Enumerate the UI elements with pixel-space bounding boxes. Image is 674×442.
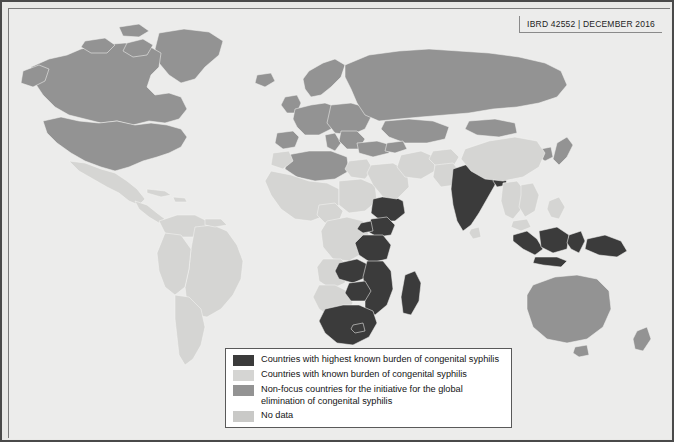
legend-label-known-burden: Countries with known burden of congenita…	[261, 369, 467, 381]
legend-swatch-non-focus	[233, 385, 254, 396]
legend-swatch-highest-burden	[233, 355, 254, 366]
legend-label-highest-burden: Countries with highest known burden of c…	[261, 354, 499, 366]
legend-item-non-focus: Non-focus countries for the initiative f…	[233, 384, 505, 407]
legend-item-known-burden: Countries with known burden of congenita…	[233, 369, 505, 381]
legend-label-no-data: No data	[261, 410, 293, 422]
map-legend: Countries with highest known burden of c…	[225, 348, 512, 428]
island-hispaniola	[173, 197, 187, 202]
legend-item-no-data: No data	[233, 410, 505, 422]
legend-label-non-focus: Non-focus countries for the initiative f…	[261, 384, 505, 407]
map-credit-box: IBRD 42552 | DECEMBER 2016	[519, 16, 662, 33]
map-inner-frame: Countries with highest known burden of c…	[8, 8, 670, 438]
world-map-figure: Countries with highest known burden of c…	[0, 0, 674, 442]
legend-swatch-no-data	[233, 411, 254, 422]
legend-item-highest-burden: Countries with highest known burden of c…	[233, 354, 505, 366]
country-zimbabwe	[345, 281, 371, 301]
map-credit-text: IBRD 42552 | DECEMBER 2016	[527, 19, 655, 29]
legend-swatch-known-burden	[233, 370, 254, 381]
